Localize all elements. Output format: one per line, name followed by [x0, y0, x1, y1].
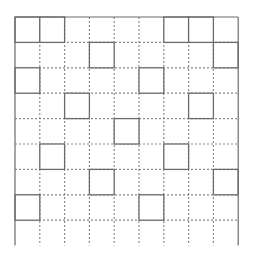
solid-square-cell: [65, 93, 90, 118]
solid-square-cell: [40, 17, 65, 42]
solid-square-cell: [89, 169, 114, 194]
solid-square-cell: [213, 42, 238, 67]
solid-square-cell: [139, 195, 164, 220]
solid-square-cell: [114, 119, 139, 144]
grid-diagram: [0, 0, 254, 261]
solid-square-cell: [15, 195, 40, 220]
solid-square-cell: [164, 144, 189, 169]
solid-square-cell: [189, 93, 214, 118]
solid-square-cell: [213, 169, 238, 194]
solid-square-cell: [164, 17, 189, 42]
solid-square-cell: [15, 68, 40, 93]
solid-square-cell: [40, 144, 65, 169]
solid-square-cell: [139, 68, 164, 93]
solid-square-cell: [15, 17, 40, 42]
solid-square-cell: [89, 42, 114, 67]
solid-square-cell: [189, 17, 214, 42]
